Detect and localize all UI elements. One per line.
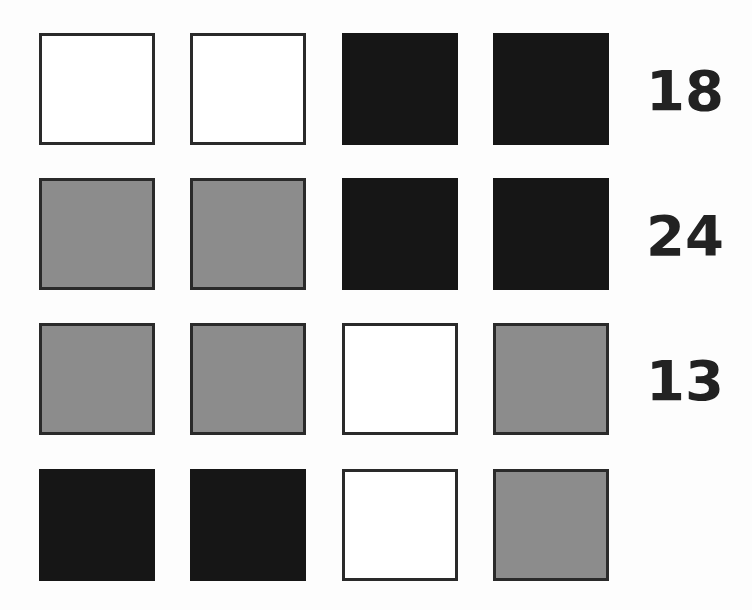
square-black: [493, 33, 609, 145]
square-gray: [190, 178, 306, 290]
square-black: [493, 178, 609, 290]
square-gray: [493, 469, 609, 581]
square-black: [342, 178, 458, 290]
square-gray: [493, 323, 609, 435]
row-value: 18: [640, 63, 730, 119]
square-black: [190, 469, 306, 581]
square-white: [190, 33, 306, 145]
square-gray: [39, 178, 155, 290]
square-black: [39, 469, 155, 581]
row-value: 24: [640, 208, 730, 264]
square-white: [39, 33, 155, 145]
square-gray: [190, 323, 306, 435]
square-black: [342, 33, 458, 145]
row-value: 13: [640, 353, 730, 409]
square-white: [342, 469, 458, 581]
square-white: [342, 323, 458, 435]
square-gray: [39, 323, 155, 435]
